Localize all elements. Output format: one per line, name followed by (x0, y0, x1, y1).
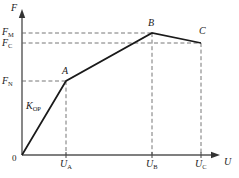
figure-container: F U 0 FM FC FN UA UB UC KOP A B C (0, 0, 239, 178)
y-tick-FC-sub: C (8, 42, 12, 49)
slope-label-KOP: KOP (26, 101, 41, 111)
y-axis-arrow (19, 9, 25, 18)
x-tick-UB-sub: B (153, 163, 157, 170)
y-tick-label-FC: FC (2, 38, 12, 48)
point-label-A: A (62, 66, 68, 76)
y-tick-FN-sub: N (8, 80, 13, 87)
y-tick-FM-sub: M (8, 31, 14, 38)
x-axis-arrow (211, 152, 220, 158)
y-tick-label-FN: FN (2, 76, 13, 86)
y-tick-label-FM: FM (2, 27, 14, 37)
slope-label-sub: OP (33, 105, 41, 112)
slope-label-base: K (26, 100, 33, 111)
x-tick-label-UB: UB (146, 159, 158, 169)
x-tick-label-UA: UA (60, 159, 72, 169)
x-tick-UA-sub: A (67, 163, 72, 170)
curve-F-U (22, 33, 201, 155)
x-tick-label-UC: UC (195, 159, 207, 169)
point-label-B: B (148, 18, 154, 28)
point-label-C: C (199, 26, 206, 36)
x-tick-UC-sub: C (202, 163, 206, 170)
x-axis-label: U (224, 157, 231, 167)
origin-label: 0 (12, 154, 17, 163)
y-axis-label: F (11, 3, 17, 13)
